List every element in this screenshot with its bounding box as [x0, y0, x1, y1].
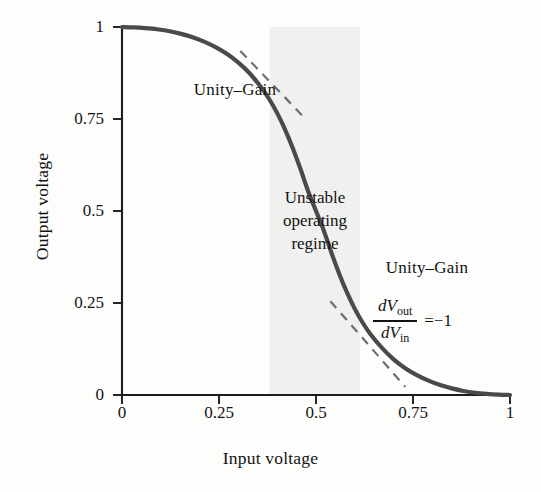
slope-denominator-subscript: in — [400, 332, 409, 346]
x-tick-label-0: 0 — [118, 403, 127, 423]
y-axis-ticks — [113, 27, 122, 395]
unity-gain-lower-label: Unity–Gain — [386, 258, 468, 278]
fraction-bar — [373, 320, 417, 321]
slope-formula: dVout dVin =−1 — [373, 296, 452, 346]
slope-fraction: dVout dVin — [373, 296, 417, 346]
unstable-operating-regime-label: Unstable operating regime — [283, 186, 347, 255]
unstable-label-line-1: Unstable — [283, 186, 347, 209]
x-axis-title: Input voltage — [0, 448, 541, 469]
x-tick-label-1: 0.25 — [204, 403, 234, 423]
y-axis-title: Output voltage — [32, 77, 53, 337]
y-tick-label-0: 0 — [38, 385, 104, 405]
slope-numerator: dVout — [373, 296, 417, 319]
y-tick-label-4: 1 — [38, 17, 104, 37]
chart-figure: 0 0.25 0.5 0.75 1 0 0.25 0.5 0.75 1 Inpu… — [0, 0, 541, 492]
x-tick-label-2: 0.5 — [305, 403, 326, 423]
slope-denominator-symbol: dV — [381, 323, 400, 342]
slope-numerator-symbol: dV — [378, 296, 397, 315]
slope-numerator-subscript: out — [397, 304, 412, 318]
slope-denominator: dVin — [376, 323, 414, 346]
voltage-transfer-characteristic-plot — [0, 0, 541, 492]
unstable-label-line-3: regime — [283, 232, 347, 255]
unstable-label-line-2: operating — [283, 209, 347, 232]
x-tick-label-4: 1 — [506, 403, 515, 423]
slope-equals-value: =−1 — [424, 311, 452, 331]
x-tick-label-3: 0.75 — [398, 403, 428, 423]
unity-gain-upper-label: Unity–Gain — [194, 80, 276, 100]
